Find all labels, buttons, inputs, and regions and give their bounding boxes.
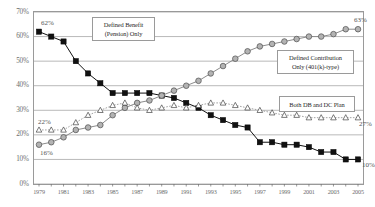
annotation-both-start: 22% <box>38 118 51 126</box>
x-tick-1983: 1983 <box>75 188 101 195</box>
callout-defined-benefit: Defined Benefit (Pension) Only <box>92 17 155 41</box>
y-tick-40%: 40% <box>1 81 29 89</box>
x-axis-ticks <box>39 184 358 187</box>
x-tick-2005: 2005 <box>345 188 371 195</box>
x-tick-1981: 1981 <box>51 188 77 195</box>
annotation-dc-start: 16% <box>40 149 53 157</box>
y-tick-10%: 10% <box>1 155 29 163</box>
callout-defined-benefit-line2: (Pension) Only <box>96 29 151 38</box>
y-tick-0%: 0% <box>1 180 29 188</box>
x-tick-1997: 1997 <box>247 188 273 195</box>
x-tick-1985: 1985 <box>100 188 126 195</box>
x-tick-2001: 2001 <box>296 188 322 195</box>
callout-both-plans: Both DB and DC Plan <box>279 96 355 112</box>
x-tick-1999: 1999 <box>271 188 297 195</box>
y-tick-30%: 30% <box>1 106 29 114</box>
annotation-dc-end: 63% <box>354 16 367 24</box>
callout-defined-benefit-line1: Defined Benefit <box>96 20 151 29</box>
y-tick-50%: 50% <box>1 57 29 65</box>
x-tick-1989: 1989 <box>149 188 175 195</box>
callout-defined-contribution: Defined Contribution Only (401(k)-type) <box>277 50 354 74</box>
x-tick-2003: 2003 <box>320 188 346 195</box>
y-tick-70%: 70% <box>1 8 29 16</box>
retirement-plan-trend-chart: 0%10%20%30%40%50%60%70% 1979198119831985… <box>0 0 375 207</box>
x-tick-1979: 1979 <box>26 188 52 195</box>
series-layer <box>36 26 361 162</box>
callout-defined-contribution-line2: Only (401(k)-type) <box>281 62 350 71</box>
annotation-both-end: 27% <box>359 120 372 128</box>
x-tick-1991: 1991 <box>173 188 199 195</box>
x-tick-1987: 1987 <box>124 188 150 195</box>
y-tick-20%: 20% <box>1 130 29 138</box>
x-tick-1995: 1995 <box>222 188 248 195</box>
y-tick-60%: 60% <box>1 32 29 40</box>
callout-defined-contribution-line1: Defined Contribution <box>281 53 350 62</box>
annotation-db-start: 62% <box>41 19 54 27</box>
annotation-db-end: 10% <box>362 161 375 169</box>
x-tick-1993: 1993 <box>198 188 224 195</box>
callout-both-plans-line1: Both DB and DC Plan <box>283 100 351 109</box>
series-1 <box>36 26 361 147</box>
